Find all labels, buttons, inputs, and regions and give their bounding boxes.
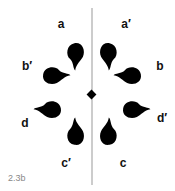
label-b-prime: b′ [22,59,32,73]
label-d-prime: d′ [157,111,167,125]
label-b: b [156,59,163,73]
shape-c-prime [66,117,87,147]
center-diamond [87,90,97,100]
symmetry-diagram [0,0,175,191]
figure-number: 2.3b [8,173,26,183]
shape-c [97,117,118,147]
shape-d-prime [122,100,152,121]
shape-b-prime [42,66,72,87]
shape-b [113,66,143,87]
shape-a [66,42,87,72]
label-a: a [58,17,65,31]
label-d: d [21,116,28,130]
label-a-prime: a′ [121,17,131,31]
shape-d [33,100,63,121]
shape-a-prime [97,42,118,72]
label-c: c [120,156,127,170]
label-c-prime: c′ [61,156,71,170]
